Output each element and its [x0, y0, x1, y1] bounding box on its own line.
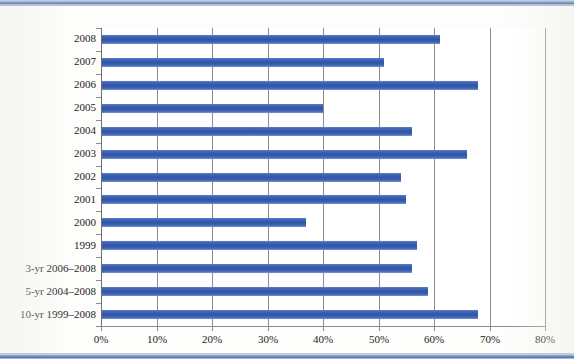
- y-axis-tick: [96, 28, 101, 29]
- y-axis-tick: [96, 74, 101, 75]
- plot-area: [101, 28, 545, 326]
- bar-2000: [101, 218, 306, 227]
- bar-row: [101, 143, 545, 166]
- y-axis-label-10-yr-1999–2008: 10-yr 1999–2008: [0, 308, 103, 320]
- x-axis-label-50%: 50%: [357, 333, 401, 345]
- bar-2008: [101, 35, 440, 44]
- x-axis-label-70%: 70%: [468, 333, 512, 345]
- bar-row: [101, 28, 545, 51]
- bar-2001: [101, 195, 406, 204]
- x-axis-tick: [545, 326, 546, 331]
- bar-2007: [101, 58, 384, 67]
- x-axis-label-10%: 10%: [135, 333, 179, 345]
- x-axis-tick: [101, 326, 102, 331]
- bar-2002: [101, 173, 401, 182]
- y-axis-tick: [96, 188, 101, 189]
- bar-10-yr-1999–2008: [101, 310, 478, 319]
- x-axis-tick: [323, 326, 324, 331]
- bar-row: [101, 234, 545, 257]
- y-axis-label-2007: 2007: [0, 55, 103, 67]
- bar-row: [101, 211, 545, 234]
- x-axis-label-80%: 80%: [523, 333, 567, 345]
- y-axis-tick: [96, 143, 101, 144]
- y-axis-tick: [96, 234, 101, 235]
- y-axis-label-2002: 2002: [0, 170, 103, 182]
- y-axis-tick: [96, 97, 101, 98]
- x-axis-tick: [268, 326, 269, 331]
- y-axis-tick: [96, 51, 101, 52]
- y-axis-tick: [96, 257, 101, 258]
- bar-row: [101, 188, 545, 211]
- bar-chart: 2008200720062005200420032002200120001999…: [0, 6, 574, 353]
- x-axis-tick: [157, 326, 158, 331]
- x-axis-tick: [490, 326, 491, 331]
- y-axis-label-1999: 1999: [0, 239, 103, 251]
- y-axis-label-2001: 2001: [0, 193, 103, 205]
- x-axis-tick: [212, 326, 213, 331]
- x-axis-label-40%: 40%: [301, 333, 345, 345]
- y-axis-label-2004: 2004: [0, 124, 103, 136]
- bar-5-yr-2004–2008: [101, 287, 428, 296]
- bar-2003: [101, 150, 467, 159]
- y-axis-tick: [96, 211, 101, 212]
- y-axis-tick: [96, 120, 101, 121]
- bar-3-yr-2006–2008: [101, 264, 412, 273]
- x-axis-label-0%: 0%: [79, 333, 123, 345]
- bar-2006: [101, 81, 478, 90]
- y-axis-tick: [96, 166, 101, 167]
- bar-row: [101, 51, 545, 74]
- bar-row: [101, 257, 545, 280]
- y-axis-label-2006: 2006: [0, 78, 103, 90]
- y-axis-label-5-yr-2004–2008: 5-yr 2004–2008: [0, 285, 103, 297]
- y-axis-label-2005: 2005: [0, 101, 103, 113]
- bar-row: [101, 303, 545, 326]
- bar-2004: [101, 127, 412, 136]
- x-axis-label-20%: 20%: [190, 333, 234, 345]
- page-footer-band: [0, 354, 574, 359]
- y-axis-label-2008: 2008: [0, 32, 103, 44]
- y-axis-tick: [96, 280, 101, 281]
- y-axis-label-2000: 2000: [0, 216, 103, 228]
- gridline-80%: [545, 28, 546, 326]
- y-axis-label-2003: 2003: [0, 147, 103, 159]
- y-axis-tick: [96, 303, 101, 304]
- y-axis-label-3-yr-2006–2008: 3-yr 2006–2008: [0, 262, 103, 274]
- x-axis-label-30%: 30%: [246, 333, 290, 345]
- bar-row: [101, 120, 545, 143]
- x-axis-tick: [379, 326, 380, 331]
- bar-1999: [101, 241, 417, 250]
- bar-row: [101, 97, 545, 120]
- bar-2005: [101, 104, 323, 113]
- bar-row: [101, 280, 545, 303]
- x-axis-label-60%: 60%: [412, 333, 456, 345]
- scanned-chart-page: 2008200720062005200420032002200120001999…: [0, 0, 574, 359]
- bar-row: [101, 74, 545, 97]
- bar-row: [101, 166, 545, 189]
- x-axis-tick: [434, 326, 435, 331]
